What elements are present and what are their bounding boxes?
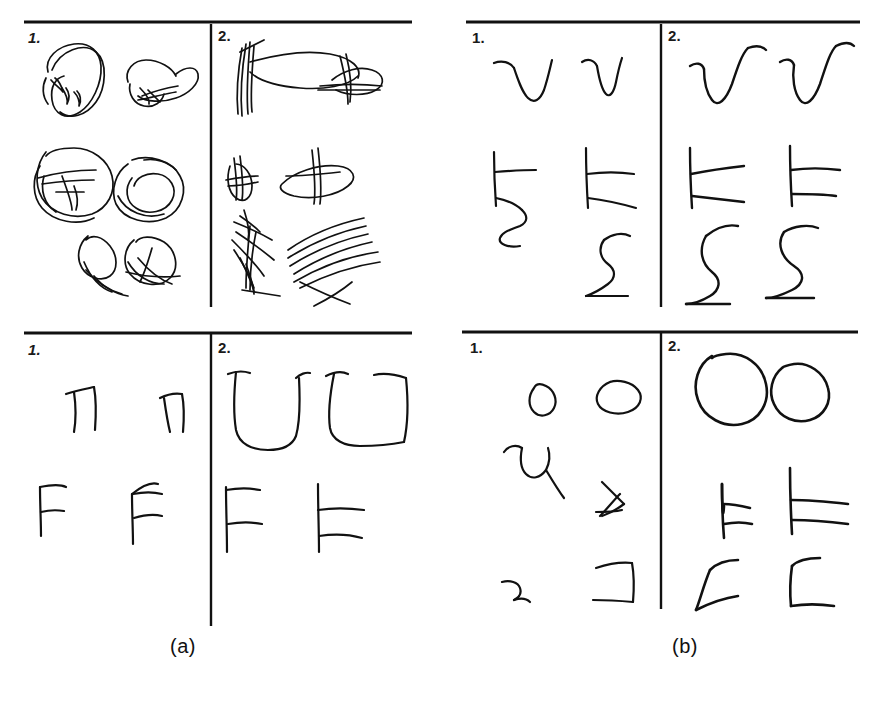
panel-b-bottom-right-strokes (696, 354, 848, 610)
frame-rules (24, 22, 860, 626)
panel-b-bottom-left-strokes (502, 381, 641, 602)
panel-a-top-right-strokes (226, 40, 382, 306)
panel-label-b-top-right: 2. (668, 28, 681, 43)
panel-label-b-bottom-right: 2. (668, 338, 681, 353)
panel-a-bottom-left-strokes (40, 387, 184, 544)
caption-a: (a) (170, 636, 196, 656)
panel-label-b-top-left: 1. (472, 30, 485, 45)
panel-label-b-bottom-left: 1. (470, 340, 483, 355)
caption-b: (b) (672, 636, 698, 656)
panel-a-top-left-strokes (34, 44, 198, 296)
panel-a-bottom-right-strokes (226, 372, 407, 552)
handwriting-figure-canvas (0, 0, 873, 712)
panel-label-a-top-right: 2. (218, 28, 231, 43)
panel-label-a-bottom-right: 2. (218, 340, 231, 355)
figure-root: 1. 2. 1. 2. 1. 2. 1. 2. (a) (b) (0, 0, 873, 712)
panel-label-a-bottom-left: 1. (28, 342, 41, 357)
panel-label-a-top-left: 1. (28, 30, 41, 45)
panel-b-top-left-strokes (494, 58, 636, 296)
panel-b-top-right-strokes (686, 43, 854, 304)
